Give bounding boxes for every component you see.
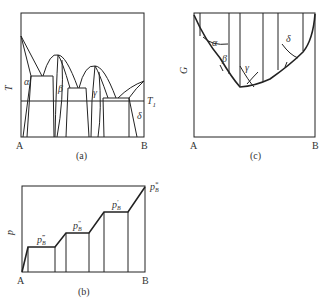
panel-b: p pB‴ pB″ pB′ pB* A B (b)	[4, 180, 159, 298]
x-left-label-a: A	[16, 140, 24, 151]
panel-c: G α β γ δ A B (c)	[178, 13, 319, 162]
y-axis-label-p: p	[4, 230, 15, 236]
phase-alpha-label-c: α	[212, 37, 218, 48]
panel-a: T α β γ δ T1 A B (a)	[3, 13, 156, 162]
phase-delta-label-c: δ	[286, 33, 291, 44]
phase-alpha-label: α	[24, 76, 30, 87]
caption-b: (b)	[78, 286, 90, 298]
x-left-label-a-b: A	[17, 275, 25, 286]
x-right-label-b-b: B	[142, 275, 149, 286]
caption-c: (c)	[250, 150, 261, 162]
phase-beta-label-c: β	[221, 53, 227, 64]
phase-gamma-label-c: γ	[245, 62, 250, 73]
pressure-label-double-prime: pB″	[72, 219, 82, 232]
caption-a: (a)	[76, 150, 87, 162]
x-right-label-b: B	[141, 140, 148, 151]
pressure-label-triple-prime: pB‴	[36, 233, 46, 246]
phase-delta-label: δ	[137, 110, 142, 121]
isotherm-t1-label: T1	[147, 95, 156, 109]
pressure-label-prime: pB′	[111, 198, 121, 211]
x-right-label-b-c: B	[312, 140, 319, 151]
panel-b-frame	[22, 186, 145, 272]
y-axis-label-g: G	[178, 67, 189, 74]
x-left-label-a-c: A	[190, 140, 198, 151]
phase-gamma-label: γ	[93, 87, 98, 98]
panel-a-frame	[21, 13, 144, 137]
pressure-label-star: pB*	[149, 180, 159, 193]
y-axis-label-t: T	[3, 84, 14, 91]
phase-beta-label: β	[57, 83, 63, 94]
phase-diagram-figure: T α β γ δ T1 A B (a) G α β γ δ	[0, 0, 327, 299]
